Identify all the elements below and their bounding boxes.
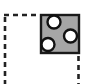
pattern-swatch xyxy=(41,15,79,53)
circle-right xyxy=(64,30,77,43)
circle-bottom-left xyxy=(42,38,55,51)
circle-top xyxy=(48,16,61,29)
fill-pattern-area-icon xyxy=(0,0,85,84)
